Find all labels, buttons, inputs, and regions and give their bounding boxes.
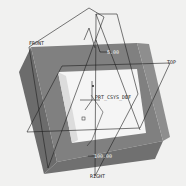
datum-label-right[interactable]: RIGHT [90,173,105,179]
cad-graphics-viewport[interactable]: FRONT TOP RIGHT PRT_CSYS_DEF 5.00 100.00 [0,0,186,186]
model-view[interactable]: FRONT TOP RIGHT PRT_CSYS_DEF 5.00 100.00 [0,0,186,186]
datum-label-front[interactable]: FRONT [29,40,44,46]
datum-label-top[interactable]: TOP [167,59,176,65]
dimension-thickness[interactable]: 5.00 [107,49,119,55]
csys-label[interactable]: PRT_CSYS_DEF [95,94,131,101]
dimension-width[interactable]: 100.00 [94,153,112,159]
